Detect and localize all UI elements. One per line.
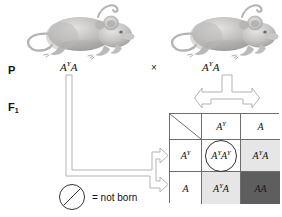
punnett-cell-1-0-allele2: A: [223, 183, 229, 194]
punnett-row-header-0: AY: [170, 140, 202, 172]
punnett-column-header-0: AY: [202, 114, 241, 140]
parent-left-allele2: A: [71, 61, 78, 73]
generation-label-p-text: P: [8, 64, 15, 76]
punnett-corner-cell: [170, 114, 202, 140]
punnett-cell-0-0: AYAY: [202, 140, 241, 172]
punnett-cell-0-0-allele2-superscript: Y: [227, 149, 231, 156]
parent-mouse-right-image: [166, 2, 282, 64]
punnett-row-header-1: A: [170, 172, 202, 204]
legend-label: = not born: [92, 192, 137, 203]
punnett-row-header-0-superscript: Y: [187, 149, 191, 156]
parent-mouse-left-image: [22, 2, 138, 64]
parent-left-genotype: AYA: [60, 60, 77, 73]
legend-circle-slash-icon: [58, 183, 86, 211]
punnett-cell-0-1: AYA: [241, 140, 280, 172]
parent-right-allele2: A: [213, 61, 220, 73]
punnett-column-header-0-superscript: Y: [222, 120, 226, 127]
legend: = not born: [58, 183, 137, 211]
right-parent-arrow: [195, 75, 260, 108]
parent-right-allele1: A: [202, 61, 209, 73]
punnett-row-header-1-allele: A: [182, 183, 188, 194]
punnett-cell-0-1-allele2: A: [262, 151, 268, 162]
punnett-column-header-1: A: [241, 114, 280, 140]
figure-canvas: P F1: [0, 0, 282, 217]
cross-symbol: ×: [151, 62, 157, 73]
generation-label-f1: F1: [8, 101, 19, 113]
corner-diagonal-line: [170, 114, 201, 139]
punnett-column-header-1-allele: A: [257, 122, 263, 133]
punnett-square: AY A AY AYAY AYA A AYA AA: [169, 113, 279, 203]
generation-label-p: P: [8, 64, 15, 76]
left-parent-arrow: [66, 75, 168, 192]
parent-right-genotype: AYA: [202, 60, 219, 73]
punnett-cell-1-1-allele2: A: [261, 183, 267, 194]
punnett-cell-1-0: AYA: [202, 172, 241, 204]
generation-label-f1-text: F: [8, 101, 15, 113]
generation-label-f1-subscript: 1: [15, 107, 19, 114]
punnett-cell-1-1: AA: [241, 172, 280, 204]
parent-left-allele1: A: [60, 61, 67, 73]
